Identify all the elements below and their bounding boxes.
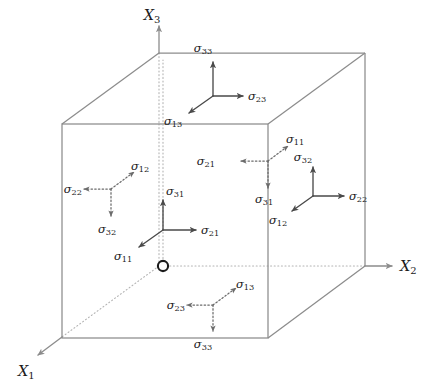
cube-depth-top-left <box>62 53 159 124</box>
label-sigma-13-top: σ13 <box>164 114 182 129</box>
triad-top-face: σ33 σ23 σ13 <box>164 41 266 129</box>
label-sigma-33-bottom: σ33 <box>194 337 212 352</box>
label-sigma-11-front: σ11 <box>114 249 132 264</box>
label-sigma-12-left: σ12 <box>131 159 149 174</box>
label-sigma-23-bottom: σ23 <box>167 298 185 313</box>
arrow-sigma-13-upright <box>213 288 236 305</box>
triad-right-face: σ32 σ22 σ12 <box>269 150 367 228</box>
stress-cube-diagram: X3 X2 X1 σ33 σ23 σ <box>0 0 430 388</box>
arrow-sigma-11-upright <box>268 146 288 161</box>
label-sigma-32-right: σ32 <box>294 150 312 165</box>
arrow-sigma-11-downleft <box>139 230 163 247</box>
label-sigma-31-front: σ31 <box>166 184 184 199</box>
axis-label-x2: X2 <box>399 258 417 276</box>
axis-label-x3: X3 <box>143 7 161 25</box>
label-sigma-12-right: σ12 <box>269 213 287 228</box>
triad-back-face: σ11 σ21 σ31 <box>197 132 305 207</box>
label-sigma-22-left: σ22 <box>64 182 82 197</box>
cube-depth-top-right <box>268 53 365 124</box>
label-sigma-33-top: σ33 <box>194 41 212 56</box>
triad-bottom-face: σ13 σ23 σ33 <box>167 277 255 352</box>
triad-left-face: σ12 σ22 σ32 <box>64 159 150 237</box>
axis-line-x1 <box>38 337 62 355</box>
arrow-sigma-12-upright <box>111 172 134 189</box>
stress-cube-canvas: X3 X2 X1 σ33 σ23 σ <box>0 0 430 388</box>
coordinate-axes <box>38 26 392 355</box>
label-sigma-11-back: σ11 <box>286 132 304 147</box>
label-sigma-31-back: σ31 <box>255 192 273 207</box>
origin-marker <box>158 261 168 271</box>
label-sigma-21-back: σ21 <box>197 154 215 169</box>
label-sigma-21-front: σ21 <box>201 223 219 238</box>
label-sigma-13-bottom: σ13 <box>236 277 254 292</box>
label-sigma-32-left: σ32 <box>98 222 116 237</box>
hidden-edge-depth-bottom <box>62 266 159 337</box>
axis-label-x1: X1 <box>17 363 35 381</box>
triad-front-face: σ31 σ21 σ11 <box>114 184 219 264</box>
label-sigma-23-top: σ23 <box>248 89 266 104</box>
arrow-sigma-12-downleft <box>292 196 313 211</box>
cube-depth-bottom-right <box>268 266 365 338</box>
cube-front-face <box>62 124 268 338</box>
arrow-sigma-13-downleft <box>189 96 213 113</box>
